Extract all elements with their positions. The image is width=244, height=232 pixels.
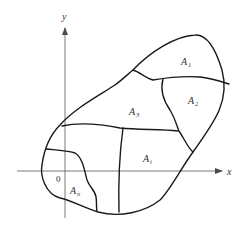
partition-a3-bottom	[62, 124, 178, 131]
svg-text:A: A	[142, 153, 150, 164]
svg-text:3: 3	[135, 111, 140, 118]
svg-text:A: A	[69, 185, 77, 196]
partition-diagram: y x 0 A 1 A 2 A 3 A i A n	[0, 0, 244, 232]
svg-text:A: A	[128, 106, 136, 117]
y-axis-label: y	[61, 11, 67, 22]
region-label-a2: A 2	[187, 95, 199, 107]
partition-a1	[133, 70, 229, 84]
region-label-ai: A i	[142, 153, 152, 165]
partition-a2	[162, 79, 193, 152]
region-label-a1: A 1	[180, 56, 191, 68]
svg-text:n: n	[77, 190, 80, 197]
x-axis-label: x	[226, 166, 232, 177]
svg-text:i: i	[150, 158, 152, 165]
svg-text:A: A	[187, 95, 195, 106]
svg-text:2: 2	[195, 100, 199, 107]
svg-text:1: 1	[188, 61, 191, 68]
partition-ai-left	[119, 128, 123, 212]
svg-text:A: A	[180, 56, 188, 67]
origin-label: 0	[56, 174, 61, 184]
region-label-a3: A 3	[128, 106, 140, 118]
region-label-an: A n	[69, 185, 80, 197]
